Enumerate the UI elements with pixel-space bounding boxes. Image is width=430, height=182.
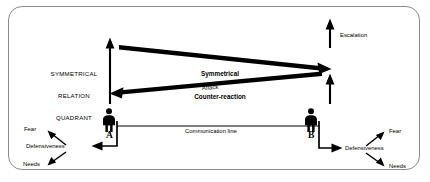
quadrant-label-line-3: QUADRANT xyxy=(41,114,107,121)
actor-a-needs-arrow xyxy=(48,152,67,166)
escalation-label: Escalation xyxy=(340,32,367,39)
actor-b-letter: B xyxy=(308,130,314,141)
escalation-arrow-top xyxy=(326,19,335,49)
actor-b-outcome-fear: Fear xyxy=(389,128,401,135)
actor-b-needs-arrow xyxy=(366,153,385,167)
counter-reaction-label-line-2: Counter-reaction xyxy=(180,93,260,101)
quadrant-label: SYMMETRICAL RELATION QUADRANT xyxy=(41,56,107,135)
diagram-canvas: SYMMETRICAL RELATION QUADRANT Symmetrica… xyxy=(0,0,430,182)
communication-line-label: Communication line xyxy=(185,128,237,135)
person-icon-b xyxy=(305,108,317,132)
actor-b-defensiveness-connector xyxy=(319,121,343,152)
quadrant-label-line-1: SYMMETRICAL xyxy=(41,70,107,77)
attack-label: Attack xyxy=(202,84,219,92)
actor-a-outcome-defensiveness: Defensiveness xyxy=(26,143,65,150)
actor-a-outcome-fear: Fear xyxy=(24,126,36,133)
actor-b-fear-arrow xyxy=(366,132,385,147)
counter-reaction-label: Symmetrical Counter-reaction xyxy=(180,54,260,117)
actor-a-letter: A xyxy=(106,130,113,141)
quadrant-label-line-2: RELATION xyxy=(41,92,107,99)
actor-b-outcome-defensiveness: Defensiveness xyxy=(345,145,384,152)
counter-reaction-label-line-1: Symmetrical xyxy=(180,70,260,78)
actor-b-outcome-needs: Needs xyxy=(389,163,406,170)
actor-a-outcome-needs: Needs xyxy=(23,161,40,168)
escalation-arrow-b xyxy=(326,74,335,105)
